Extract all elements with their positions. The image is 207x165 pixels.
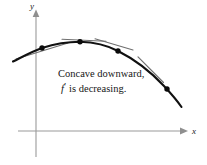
caption-block: Concave downward, f′is decreasing. (58, 68, 168, 95)
curve-point-1 (39, 45, 44, 50)
curve-point-2 (77, 39, 82, 44)
caption-line-1: Concave downward, (58, 68, 168, 81)
x-axis-arrowhead (180, 128, 188, 135)
curve-point-3 (115, 48, 120, 53)
caption-predicate: is decreasing. (69, 82, 126, 93)
prime-symbol: ′ (64, 81, 66, 92)
concavity-figure: y x Concave downward, f′is decreasing. (0, 0, 207, 165)
x-axis-label: x (191, 126, 196, 136)
caption-line-2: f′is decreasing. (58, 81, 168, 95)
y-axis-label: y (29, 1, 34, 11)
